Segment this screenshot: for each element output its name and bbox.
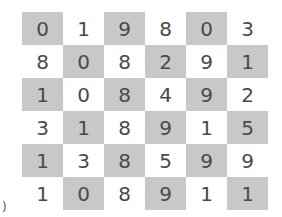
grid-cell[interactable]: 0 (63, 177, 104, 210)
grid-cell[interactable]: 9 (186, 78, 227, 111)
grid-cell[interactable]: 1 (186, 177, 227, 210)
grid-cell[interactable]: 8 (104, 111, 145, 144)
grid-cell[interactable]: 1 (186, 111, 227, 144)
grid-cell[interactable]: 8 (104, 144, 145, 177)
grid-cell[interactable]: 1 (227, 177, 268, 210)
grid-cell[interactable]: 8 (145, 12, 186, 45)
grid-cell[interactable]: 1 (22, 177, 63, 210)
grid-cell[interactable]: 3 (63, 144, 104, 177)
grid-cell[interactable]: 9 (104, 12, 145, 45)
grid-cell[interactable]: 0 (22, 12, 63, 45)
grid-cell[interactable]: 8 (22, 45, 63, 78)
grid-cell[interactable]: 8 (104, 45, 145, 78)
grid-cell[interactable]: 2 (227, 78, 268, 111)
grid-cell[interactable]: 1 (22, 144, 63, 177)
grid-cell[interactable]: 3 (227, 12, 268, 45)
grid-cell[interactable]: 1 (22, 78, 63, 111)
number-grid: 019803808291108492318915138599108911 (22, 12, 268, 210)
grid-cell[interactable]: 0 (63, 78, 104, 111)
grid-cell[interactable]: 9 (145, 177, 186, 210)
grid-cell[interactable]: 8 (104, 78, 145, 111)
grid-cell[interactable]: 1 (63, 111, 104, 144)
grid-cell[interactable]: 8 (104, 177, 145, 210)
grid-cell[interactable]: 5 (227, 111, 268, 144)
stray-paren: ) (2, 200, 7, 214)
grid-cell[interactable]: 5 (145, 144, 186, 177)
grid-cell[interactable]: 1 (63, 12, 104, 45)
grid-cell[interactable]: 4 (145, 78, 186, 111)
grid-cell[interactable]: 9 (227, 144, 268, 177)
grid-cell[interactable]: 0 (186, 12, 227, 45)
grid-cell[interactable]: 3 (22, 111, 63, 144)
grid-cell[interactable]: 2 (145, 45, 186, 78)
grid-cell[interactable]: 9 (186, 144, 227, 177)
grid-cell[interactable]: 9 (186, 45, 227, 78)
grid-cell[interactable]: 9 (145, 111, 186, 144)
grid-cell[interactable]: 1 (227, 45, 268, 78)
grid-cell[interactable]: 0 (63, 45, 104, 78)
